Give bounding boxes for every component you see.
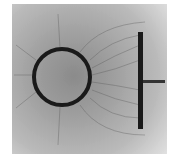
plate-electrode: [138, 32, 143, 129]
plate-lead: [143, 80, 165, 83]
field-line-photo: [0, 0, 175, 167]
ring-electrode: [34, 49, 90, 105]
electrodes: [0, 0, 175, 167]
